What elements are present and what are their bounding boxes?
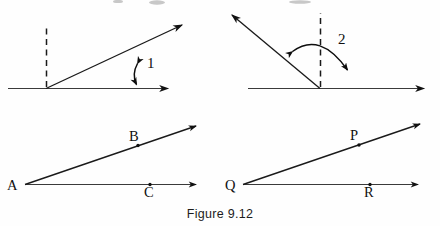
angle-bac-upper-ray: [25, 126, 196, 185]
angle-1-panel: 1: [8, 25, 182, 89]
vertex-label-a: A: [7, 177, 18, 193]
point-p-dot: [357, 143, 360, 146]
vertex-label-q: Q: [225, 177, 236, 193]
angle-2-panel: 2: [232, 13, 424, 89]
angle-pqr-upper-ray: [243, 124, 420, 185]
scan-edge-artifacts: [113, 0, 311, 5]
angle-2-measure-arc: [293, 44, 348, 70]
angle-1-measure-arc: [134, 64, 137, 85]
angle-2-slanted-ray: [232, 15, 320, 89]
point-b-dot: [136, 144, 139, 147]
angle-2-label: 2: [338, 31, 346, 47]
point-label-p: P: [350, 127, 358, 143]
angle-bac-panel: A B C: [7, 126, 196, 200]
geometry-figure-canvas: 1 2 A B C Q P R Figure 9.12: [0, 0, 440, 226]
angle-pqr-panel: Q P R: [225, 124, 420, 200]
angle-1-label: 1: [147, 55, 155, 71]
point-label-r: R: [364, 184, 374, 200]
angle-1-slanted-ray: [46, 25, 182, 89]
figure-caption: Figure 9.12: [187, 207, 254, 221]
point-label-b: B: [129, 128, 139, 144]
point-label-c: C: [144, 184, 154, 200]
